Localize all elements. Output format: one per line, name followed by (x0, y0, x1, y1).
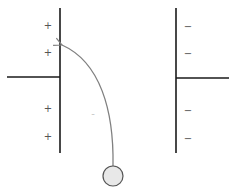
left-plate: + + + + (7, 8, 60, 153)
plus-sign: + (44, 20, 52, 31)
plus-sign: + (44, 103, 52, 114)
minus-sign: − (184, 133, 192, 144)
charged-plates-diagram: + + + + − − − − - (0, 0, 234, 196)
plus-sign: + (44, 47, 52, 58)
minus-sign: − (184, 48, 192, 59)
minus-sign: − (184, 21, 192, 32)
faint-field-mark: - (91, 108, 95, 119)
particle-trajectory-arrow (62, 45, 113, 166)
charged-particle (103, 166, 123, 186)
minus-sign: − (184, 105, 192, 116)
right-plate: − − − − (176, 8, 229, 153)
plus-sign: + (44, 131, 52, 142)
